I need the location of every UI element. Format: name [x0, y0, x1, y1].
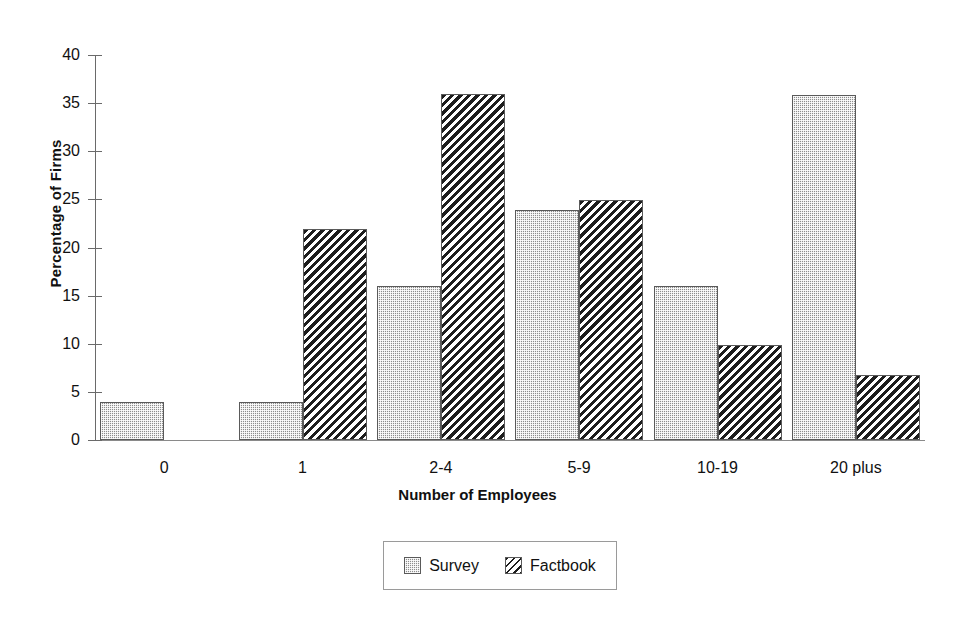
bar-factbook-5-9: [579, 200, 643, 440]
x-axis-tick-group: 012-45-910-1920 plus: [0, 458, 955, 482]
bar-survey-1: [239, 402, 303, 441]
x-axis-tick-label: 20 plus: [796, 458, 916, 478]
bar-factbook-2-4: [441, 94, 505, 440]
y-axis-tick: [88, 440, 102, 441]
x-axis-tick-label: 10-19: [658, 458, 778, 478]
legend-swatch-survey-icon: [404, 557, 421, 574]
y-axis-tick-label: 40: [40, 47, 80, 63]
x-axis-tick-label: 0: [104, 458, 224, 478]
y-axis-tick-label: 15: [40, 288, 80, 304]
bar-survey-2-4: [377, 286, 441, 440]
x-axis-tick-label: 1: [243, 458, 363, 478]
legend-item-survey: Survey: [404, 557, 479, 574]
bar-survey-5-9: [515, 210, 579, 440]
bar-survey-20-plus: [792, 95, 856, 440]
bar-survey-10-19: [654, 286, 718, 440]
y-axis-tick-label: 0: [40, 432, 80, 448]
bar-factbook-1: [303, 229, 367, 440]
y-axis-tick-label: 20: [40, 240, 80, 256]
bar-survey-0: [100, 402, 164, 441]
y-axis-tick-label: 30: [40, 143, 80, 159]
y-axis-tick-label: 10: [40, 336, 80, 352]
bars-layer: [95, 55, 925, 440]
x-axis-title: Number of Employees: [0, 486, 955, 503]
legend-item-factbook: Factbook: [505, 557, 596, 574]
y-axis-tick-label: 5: [40, 384, 80, 400]
legend-label-survey: Survey: [429, 558, 479, 574]
x-axis-tick-label: 2-4: [381, 458, 501, 478]
chart-legend: Survey Factbook: [383, 541, 617, 590]
y-axis-tick-label: 35: [40, 95, 80, 111]
bar-factbook-10-19: [718, 345, 782, 440]
legend-swatch-factbook-icon: [505, 557, 522, 574]
bar-chart: Percentage of Firms 0510152025303540 012…: [0, 0, 955, 629]
bar-factbook-20-plus: [856, 375, 920, 440]
legend-label-factbook: Factbook: [530, 558, 596, 574]
x-axis-tick-label: 5-9: [519, 458, 639, 478]
x-axis-line: [88, 440, 925, 441]
y-axis-tick-label: 25: [40, 191, 80, 207]
